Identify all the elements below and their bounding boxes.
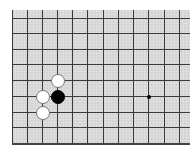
grid-column-line — [148, 10, 149, 144]
grid-column-line — [27, 10, 28, 144]
grid-column-line — [164, 10, 165, 144]
grid-column-line — [87, 10, 88, 144]
white-stone — [51, 74, 65, 88]
grid-column-line — [179, 10, 180, 144]
grid-column-line — [133, 10, 134, 144]
grid-row-line — [12, 143, 190, 145]
white-stone — [36, 90, 50, 104]
grid-column-line — [42, 10, 43, 144]
grid-row-line — [12, 18, 190, 19]
grid-column-line — [103, 10, 104, 144]
grid-column-line — [72, 10, 73, 144]
grid-row-line — [12, 80, 190, 81]
grid-row-line — [12, 127, 190, 128]
grid-row-line — [12, 64, 190, 65]
grid-row-line — [12, 49, 190, 50]
star-point[interactable] — [147, 95, 151, 99]
grid-row-line — [12, 33, 190, 34]
go-board[interactable] — [12, 10, 190, 144]
grid-column-line — [118, 10, 119, 144]
white-stone — [36, 106, 50, 120]
grid-column-line — [12, 10, 13, 144]
black-stone — [51, 90, 65, 104]
